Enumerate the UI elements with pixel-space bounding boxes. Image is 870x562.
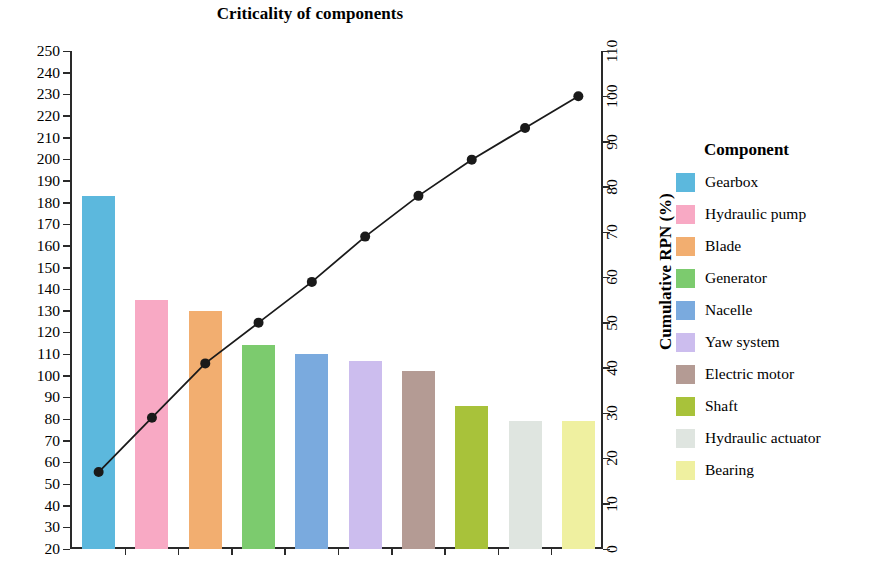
legend-item-label: Electric motor bbox=[705, 365, 794, 383]
legend-item-gearbox[interactable]: Gearbox bbox=[676, 166, 866, 198]
y-axis-left-tick-label: 250 bbox=[18, 43, 60, 59]
legend-items: GearboxHydraulic pumpBladeGeneratorNacel… bbox=[676, 166, 866, 486]
x-axis-tick-mark bbox=[338, 547, 340, 555]
y-axis-left-tick-label: 80 bbox=[18, 411, 60, 427]
chart-canvas: Criticality of components RPN - mean val… bbox=[0, 0, 870, 562]
cumulative-marker: Bearing: 100% bbox=[573, 91, 583, 101]
y-axis-left-tick-label: 40 bbox=[18, 498, 60, 514]
y-axis-left-tick-mark bbox=[63, 137, 70, 139]
legend-swatch-icon bbox=[676, 269, 695, 288]
legend-swatch-icon bbox=[676, 301, 695, 320]
x-axis-tick-mark bbox=[125, 547, 127, 555]
legend-item-blade[interactable]: Blade bbox=[676, 230, 866, 262]
y-axis-left-tick-mark bbox=[63, 224, 70, 226]
y-axis-left-tick-mark bbox=[63, 72, 70, 74]
y-axis-left-tick-mark bbox=[63, 180, 70, 182]
y-axis-left-tick-mark bbox=[63, 419, 70, 421]
y-axis-left-tick-mark bbox=[63, 332, 70, 334]
cumulative-marker: Nacelle: 59% bbox=[307, 277, 317, 287]
legend-swatch-icon bbox=[676, 333, 695, 352]
y-axis-left-tick-label: 50 bbox=[18, 476, 60, 492]
y-axis-left-tick-mark bbox=[63, 245, 70, 247]
x-axis-tick-mark bbox=[178, 547, 180, 555]
y-axis-left-tick-label: 200 bbox=[18, 151, 60, 167]
y-axis-left-tick-mark bbox=[63, 115, 70, 117]
legend-item-label: Shaft bbox=[705, 397, 738, 415]
legend-item-hydraulic-pump[interactable]: Hydraulic pump bbox=[676, 198, 866, 230]
chart-title: Criticality of components bbox=[0, 4, 620, 24]
y-axis-left-tick-label: 130 bbox=[18, 303, 60, 319]
x-axis-tick-mark bbox=[391, 547, 393, 555]
cumulative-marker: Gearbox: 17% bbox=[94, 467, 104, 477]
legend-item-label: Blade bbox=[705, 237, 741, 255]
y-axis-left-tick-label: 100 bbox=[18, 368, 60, 384]
cumulative-marker: Electric motor: 78% bbox=[413, 191, 423, 201]
x-axis-tick-mark bbox=[444, 547, 446, 555]
legend-item-label: Gearbox bbox=[705, 173, 758, 191]
legend-item-bearing[interactable]: Bearing bbox=[676, 454, 866, 486]
legend-item-electric-motor[interactable]: Electric motor bbox=[676, 358, 866, 390]
cumulative-marker: Yaw system: 69% bbox=[360, 232, 370, 242]
y-axis-left-tick-mark bbox=[63, 310, 70, 312]
y-axis-left-tick-label: 240 bbox=[18, 65, 60, 81]
y-axis-left-tick-label: 210 bbox=[18, 130, 60, 146]
y-axis-left-tick-label: 160 bbox=[18, 238, 60, 254]
legend: Component GearboxHydraulic pumpBladeGene… bbox=[676, 140, 866, 486]
y-axis-left-tick-label: 180 bbox=[18, 195, 60, 211]
y-axis-left-tick-label: 230 bbox=[18, 86, 60, 102]
y-axis-left-tick-label: 20 bbox=[18, 541, 60, 557]
y-axis-left-tick-label: 90 bbox=[18, 389, 60, 405]
y-axis-left-tick-mark bbox=[63, 440, 70, 442]
x-axis-tick-mark bbox=[284, 547, 286, 555]
cumulative-marker: Hydraulic actuator: 93% bbox=[520, 123, 530, 133]
legend-item-shaft[interactable]: Shaft bbox=[676, 390, 866, 422]
cumulative-marker: Shaft: 86% bbox=[467, 155, 477, 165]
y-axis-left-tick-label: 150 bbox=[18, 260, 60, 276]
y-axis-left-tick-mark bbox=[63, 289, 70, 291]
cumulative-marker: Generator: 50% bbox=[254, 318, 264, 328]
y-axis-left-tick-label: 110 bbox=[18, 346, 60, 362]
legend-item-nacelle[interactable]: Nacelle bbox=[676, 294, 866, 326]
plot-area: Gearbox: 17%Hydraulic pump: 29%Blade: 41… bbox=[70, 51, 603, 549]
legend-item-label: Bearing bbox=[705, 461, 754, 479]
cumulative-marker: Hydraulic pump: 29% bbox=[147, 413, 157, 423]
cumulative-marker: Blade: 41% bbox=[200, 358, 210, 368]
legend-swatch-icon bbox=[676, 461, 695, 480]
y-axis-left-tick-mark bbox=[63, 484, 70, 486]
y-axis-left-tick-label: 30 bbox=[18, 519, 60, 535]
y-axis-left-tick-label: 220 bbox=[18, 108, 60, 124]
y-axis-left-tick-mark bbox=[63, 94, 70, 96]
legend-swatch-icon bbox=[676, 429, 695, 448]
y-axis-left-tick-label: 190 bbox=[18, 173, 60, 189]
legend-item-generator[interactable]: Generator bbox=[676, 262, 866, 294]
legend-item-hydraulic-actuator[interactable]: Hydraulic actuator bbox=[676, 422, 866, 454]
legend-swatch-icon bbox=[676, 237, 695, 256]
y-axis-left-tick-mark bbox=[63, 354, 70, 356]
legend-item-label: Hydraulic actuator bbox=[705, 429, 821, 447]
y-axis-left-tick-label: 140 bbox=[18, 281, 60, 297]
legend-title: Component bbox=[704, 140, 866, 160]
y-axis-left-tick-mark bbox=[63, 397, 70, 399]
y-axis-left-tick-mark bbox=[63, 159, 70, 161]
y-axis-left-tick-label: 60 bbox=[18, 454, 60, 470]
x-axis-tick-mark bbox=[231, 547, 233, 555]
legend-swatch-icon bbox=[676, 205, 695, 224]
cumulative-line bbox=[99, 96, 579, 472]
legend-item-label: Hydraulic pump bbox=[705, 205, 806, 223]
y-axis-left-tick-label: 70 bbox=[18, 433, 60, 449]
legend-item-label: Generator bbox=[705, 269, 767, 287]
y-axis-left-tick-mark bbox=[63, 375, 70, 377]
legend-item-label: Nacelle bbox=[705, 301, 752, 319]
y-axis-left-tick-label: 120 bbox=[18, 324, 60, 340]
legend-item-label: Yaw system bbox=[705, 333, 780, 351]
y-axis-left-tick-mark bbox=[63, 549, 70, 551]
legend-swatch-icon bbox=[676, 365, 695, 384]
legend-item-yaw-system[interactable]: Yaw system bbox=[676, 326, 866, 358]
y-axis-left-tick-mark bbox=[63, 505, 70, 507]
legend-swatch-icon bbox=[676, 173, 695, 192]
cumulative-line-layer: Gearbox: 17%Hydraulic pump: 29%Blade: 41… bbox=[72, 51, 605, 549]
y-axis-left-tick-mark bbox=[63, 51, 70, 53]
x-axis-tick-mark bbox=[498, 547, 500, 555]
legend-swatch-icon bbox=[676, 397, 695, 416]
y-axis-left-tick-mark bbox=[63, 462, 70, 464]
